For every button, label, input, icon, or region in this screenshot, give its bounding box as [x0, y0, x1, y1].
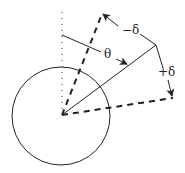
minus-delta-label: −δ	[122, 24, 139, 36]
minus-delta-arrow	[103, 14, 118, 26]
circle	[12, 67, 110, 165]
theta-arrow	[116, 59, 127, 64]
plus-delta-label: +δ	[158, 66, 175, 78]
minus-delta-connector	[140, 34, 156, 45]
theta-indicator-line	[62, 35, 101, 52]
diagram-canvas	[0, 0, 185, 173]
plus-delta-arrow	[168, 80, 172, 96]
theta-label: θ	[104, 48, 111, 60]
plus-delta-dashed-line	[62, 98, 173, 115]
